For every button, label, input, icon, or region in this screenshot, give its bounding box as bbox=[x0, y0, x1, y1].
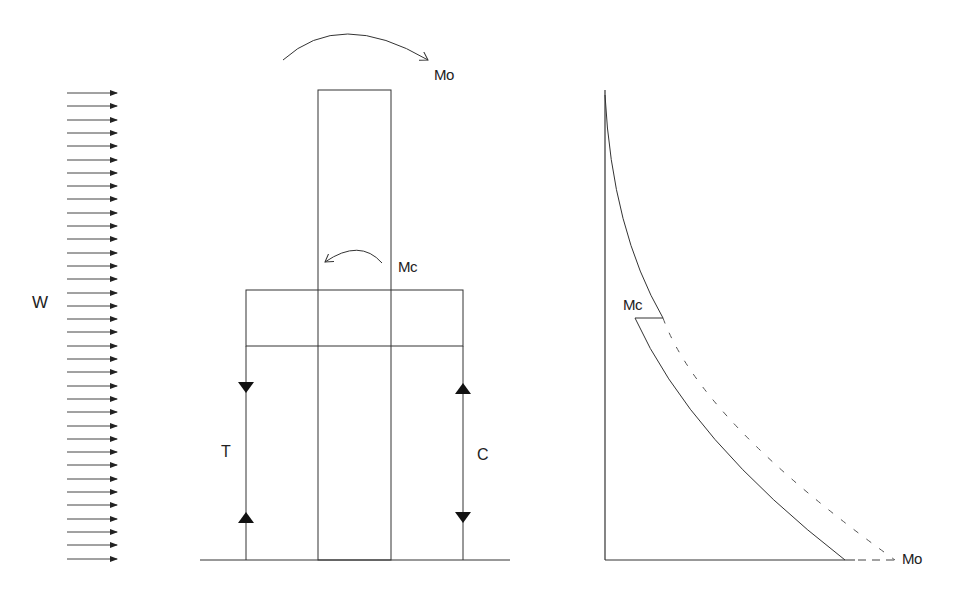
diagram-mo-label: Mo bbox=[902, 551, 922, 566]
top-moment-label: Mo bbox=[434, 67, 454, 82]
core-moment-arrow-icon bbox=[325, 250, 382, 263]
top-moment-arrow-icon bbox=[283, 34, 428, 60]
compression-arrow-up-icon bbox=[455, 383, 471, 394]
outrigger-truss bbox=[246, 290, 463, 346]
compression-arrow-down-icon bbox=[455, 512, 471, 523]
wind-load-label: W bbox=[32, 294, 48, 311]
tension-label: T bbox=[221, 444, 230, 460]
wind-load-arrows bbox=[67, 93, 117, 559]
diagram-svg bbox=[0, 0, 961, 590]
compression-label: C bbox=[477, 447, 488, 463]
moment-curve-lower bbox=[635, 318, 845, 560]
moment-curve-upper bbox=[605, 95, 663, 318]
diagram-mc-label: Mc bbox=[623, 297, 642, 312]
core-moment-label: Mc bbox=[398, 259, 417, 274]
tension-arrow-down-icon bbox=[238, 382, 254, 393]
tension-arrow-up-icon bbox=[238, 512, 254, 523]
moment-curve-without-outrigger bbox=[663, 318, 895, 560]
diagram-canvas: W Mo Mc T C Mc Mo bbox=[0, 0, 961, 590]
core-wall bbox=[318, 90, 391, 560]
